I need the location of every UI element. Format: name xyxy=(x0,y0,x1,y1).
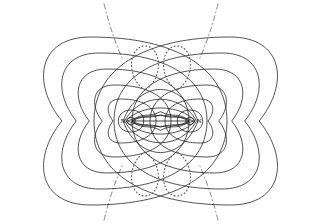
atom-label-right: N xyxy=(196,117,201,125)
atom-label-left: N xyxy=(120,117,125,125)
contour-plot-canvas: NN xyxy=(0,0,320,224)
contour-figure: NN xyxy=(0,0,320,224)
